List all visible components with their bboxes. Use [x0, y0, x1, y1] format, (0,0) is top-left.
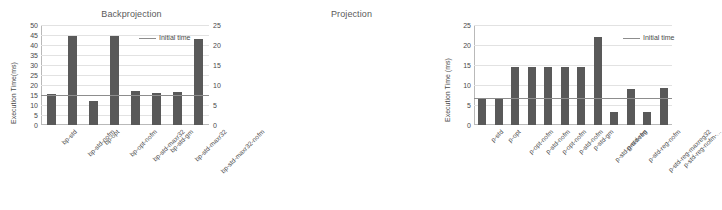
- bar: [511, 67, 519, 125]
- bar: [152, 93, 161, 125]
- gridline: [41, 115, 209, 116]
- bar: [173, 92, 182, 125]
- chart-title-backprojection: Backprojection: [0, 9, 249, 19]
- chart-backprojection: Backprojection Execution Time(ms) 051015…: [0, 0, 235, 210]
- gridline: [474, 105, 672, 106]
- x-axis-category-label: p-opt: [506, 128, 521, 143]
- x-axis-category-label: bp-opt-nofm: [128, 128, 158, 158]
- legend-line-swatch: [139, 38, 156, 39]
- secondary-y-axis-tick-label: 15: [213, 62, 221, 69]
- bar: [478, 98, 486, 125]
- y-axis-label-backprojection: Execution Time(ms): [10, 62, 17, 124]
- gridline: [41, 105, 209, 106]
- bar: [660, 88, 668, 125]
- gridline: [41, 25, 209, 26]
- bar: [68, 36, 77, 125]
- secondary-y-axis-tick-label: 0: [213, 122, 217, 129]
- bar: [544, 67, 552, 125]
- bar: [643, 112, 651, 125]
- bar: [110, 36, 119, 125]
- legend-label-initial-time: Initial time: [643, 34, 675, 42]
- y-axis-label-projection: Execution Time (ms): [444, 58, 451, 122]
- bar: [594, 37, 602, 125]
- y-axis-tick-label: 35: [30, 52, 38, 59]
- bar: [528, 67, 536, 125]
- gridline: [474, 45, 672, 46]
- y-axis-line-projection: [474, 25, 475, 125]
- secondary-y-axis-tick-label: 10: [213, 82, 221, 89]
- bar: [610, 112, 618, 125]
- y-axis-tick-label: 25: [30, 72, 38, 79]
- y-axis-tick-label: 15: [30, 92, 38, 99]
- secondary-y-axis-tick-label: 25: [213, 22, 221, 29]
- y-axis-tick-label: 5: [467, 102, 471, 109]
- chart-projection: Projection Execution Time (ms) 051015202…: [228, 0, 471, 210]
- secondary-y-axis-tick-label: 5: [213, 102, 217, 109]
- y-axis-tick-label: 20: [463, 42, 471, 49]
- x-axis-category-label: p-std: [489, 128, 504, 143]
- bar: [194, 39, 203, 125]
- legend-backprojection: Initial time: [139, 34, 191, 42]
- bar: [495, 98, 503, 125]
- y-axis-tick-label: 10: [463, 82, 471, 89]
- y-axis-tick-label: 10: [30, 102, 38, 109]
- gridline: [474, 65, 672, 66]
- legend-projection: Initial time: [623, 34, 675, 42]
- x-axis-category-label: bp-opt: [102, 128, 120, 146]
- initial-time-line: [41, 95, 209, 96]
- y-axis-tick-label: 50: [30, 22, 38, 29]
- y-axis-tick-label: 30: [30, 62, 38, 69]
- bar: [627, 89, 635, 125]
- x-axis-category-label: bp-std-maxr32: [193, 128, 228, 163]
- y-axis-tick-label: 0: [467, 122, 471, 129]
- bar: [89, 101, 98, 125]
- y-axis-tick-label: 40: [30, 42, 38, 49]
- gridline: [41, 75, 209, 76]
- y-axis-tick-label: 15: [463, 62, 471, 69]
- gridline: [41, 65, 209, 66]
- initial-time-line: [474, 98, 672, 99]
- y-axis-tick-label: 0: [34, 122, 38, 129]
- bar: [577, 67, 585, 125]
- y-axis-tick-label: 25: [463, 22, 471, 29]
- x-axis-category-label: p-std-reg: [625, 128, 648, 151]
- secondary-y-axis-tick-label: 20: [213, 42, 221, 49]
- gridline: [41, 85, 209, 86]
- y-axis-tick-label: 20: [30, 82, 38, 89]
- bar: [47, 94, 56, 125]
- gridline: [41, 55, 209, 56]
- bar: [561, 67, 569, 125]
- chart-title-projection: Projection: [228, 9, 473, 19]
- gridline: [41, 45, 209, 46]
- legend-line-swatch: [623, 38, 640, 39]
- x-axis-line-backprojection: [41, 124, 209, 125]
- gridline: [474, 25, 672, 26]
- y-axis-tick-label: 45: [30, 32, 38, 39]
- bar: [131, 91, 140, 125]
- legend-label-initial-time: Initial time: [159, 34, 191, 42]
- y-axis-tick-label: 5: [34, 112, 38, 119]
- gridline: [474, 85, 672, 86]
- x-axis-category-label: bp-std: [60, 128, 78, 146]
